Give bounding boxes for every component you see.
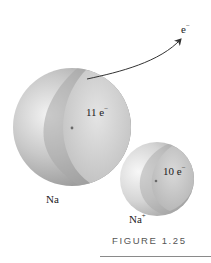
electron-ejection-arrow — [87, 39, 181, 79]
na-nucleus — [71, 127, 74, 130]
na-ion-electron-count: 10 e− — [163, 166, 186, 177]
caption-divider — [100, 256, 211, 257]
sodium-ionization-diagram — [0, 0, 211, 263]
figure-caption: FIGURE 1.25 — [112, 235, 187, 246]
na-atom-label: Na — [46, 194, 59, 205]
na-ion-nucleus — [155, 180, 158, 183]
na-ion-sphere — [120, 140, 200, 216]
na-electron-count: 11 e− — [86, 107, 108, 118]
ejected-electron-label: e− — [181, 24, 190, 35]
na-atom-sphere — [13, 60, 140, 190]
na-ion-label: Na+ — [129, 214, 146, 225]
